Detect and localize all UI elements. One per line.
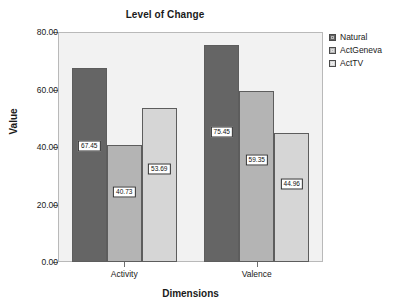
y-tick-label: 0.00 — [18, 257, 58, 267]
y-axis-title: Value — [8, 121, 19, 135]
y-tick-label: 60.00 — [18, 85, 58, 95]
y-tick-label: 20.00 — [18, 200, 58, 210]
x-tick-mark — [124, 262, 125, 267]
x-tick-mark — [257, 262, 258, 267]
legend-item[interactable]: ActGeneva — [329, 44, 382, 56]
bar-value-label: 40.73 — [113, 186, 135, 197]
x-tick-label: Activity — [69, 269, 179, 279]
x-tick-label: Valence — [202, 269, 312, 279]
bar — [72, 68, 107, 262]
x-axis-title: Dimensions — [58, 288, 323, 299]
bar-value-label: 53.69 — [148, 164, 170, 175]
legend-label: ActTV — [340, 58, 363, 68]
bar-value-label: 67.45 — [78, 140, 100, 151]
bar — [107, 145, 142, 262]
bar — [239, 91, 274, 262]
legend-label: ActGeneva — [340, 45, 382, 55]
legend-swatch-icon — [329, 60, 336, 67]
bar — [274, 133, 309, 262]
bar — [142, 108, 177, 262]
legend-item[interactable]: Natural — [329, 31, 382, 43]
chart-title: Level of Change — [0, 9, 330, 20]
legend-swatch-icon — [329, 34, 336, 41]
bar-value-label: 44.96 — [281, 179, 303, 190]
y-tick-label: 80.00 — [18, 27, 58, 37]
legend-swatch-icon — [329, 47, 336, 54]
legend: NaturalActGenevaActTV — [329, 31, 382, 70]
bar — [204, 45, 239, 262]
legend-item[interactable]: ActTV — [329, 57, 382, 69]
bar-chart: Level of Change Value 0.0020.0040.0060.0… — [0, 0, 405, 307]
y-tick-label: 40.00 — [18, 142, 58, 152]
bar-value-label: 59.35 — [246, 154, 268, 165]
bar-value-label: 75.45 — [211, 126, 233, 137]
legend-label: Natural — [340, 32, 367, 42]
